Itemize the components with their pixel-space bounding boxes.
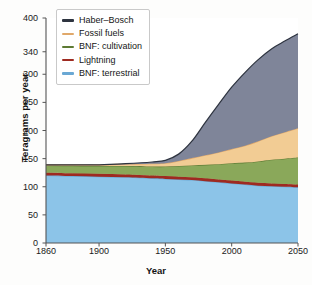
legend-item[interactable]: Lightning [62,54,142,67]
legend-item-label: Fossil fuels [79,28,124,39]
legend-item-label: BNF: terrestrial [79,68,140,79]
y-axis-title: Teragrams per year [19,38,30,198]
x-tick-label: 1950 [143,246,187,256]
chart-legend: Haber–BoschFossil fuelsBNF: cultivationL… [56,9,150,85]
y-tick-label: 50 [4,210,38,220]
legend-swatch-icon [62,59,74,61]
legend-item-label: BNF: cultivation [79,41,142,52]
legend-item[interactable]: BNF: cultivation [62,40,142,53]
x-tick-label: 1860 [24,246,68,256]
legend-swatch-icon [62,19,74,21]
legend-item[interactable]: Haber–Bosch [62,14,142,27]
x-tick-label: 2050 [276,246,312,256]
legend-swatch-icon [62,46,74,48]
x-tick-label: 2000 [210,246,254,256]
x-axis-title: Year [0,265,312,276]
legend-item-label: Lightning [79,55,116,66]
legend-item[interactable]: Fossil fuels [62,27,142,40]
x-tick-label: 1900 [77,246,121,256]
stacked-area-plot [0,0,312,285]
legend-swatch-icon [62,72,74,74]
y-tick-label: 400 [4,13,38,23]
chart-figure: 050100150200250300340400 186019001950200… [0,0,312,285]
legend-swatch-icon [62,33,74,35]
legend-item[interactable]: BNF: terrestrial [62,67,142,80]
legend-item-label: Haber–Bosch [79,15,134,26]
